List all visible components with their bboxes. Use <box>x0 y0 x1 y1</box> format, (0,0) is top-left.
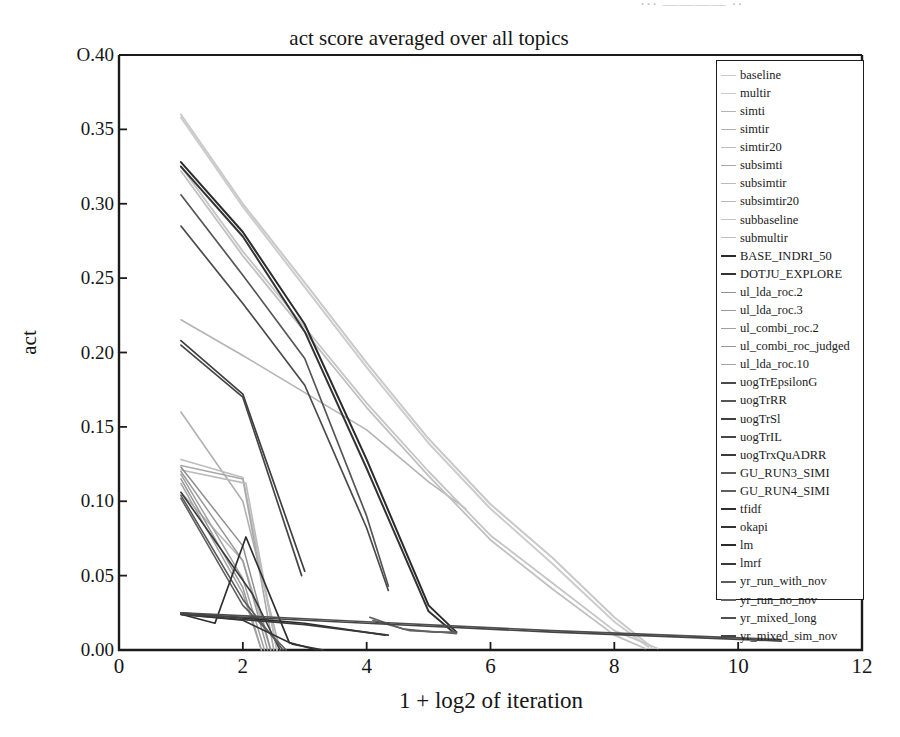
legend-line-swatch-icon <box>721 400 736 402</box>
legend-item[interactable]: submultir <box>721 229 863 247</box>
legend-item[interactable]: ul_combi_roc.2 <box>721 319 863 337</box>
legend-item[interactable]: multir <box>721 84 863 102</box>
legend-item[interactable]: okapi <box>721 518 863 536</box>
legend-line-swatch-icon <box>721 93 736 94</box>
legend-item[interactable]: subbaseline <box>721 211 863 229</box>
legend-item[interactable]: simtir <box>721 120 863 138</box>
legend-item-label: simti <box>740 105 765 118</box>
series-line-multir <box>181 117 648 647</box>
legend-line-swatch-icon <box>721 382 736 384</box>
legend-item-label: uogTrEpsilonG <box>740 376 817 389</box>
legend-item-label: subsimtir20 <box>740 195 799 208</box>
legend-item-label: subsimti <box>740 159 782 172</box>
legend-item-label: ul_combi_roc.2 <box>740 322 819 335</box>
legend-item[interactable]: yr_run_no_nov <box>721 591 863 609</box>
legend-item[interactable]: simti <box>721 102 863 120</box>
legend-item-label: yr_mixed_sim_nov <box>740 630 837 643</box>
legend-line-swatch-icon <box>721 75 736 76</box>
legend-item-label: uogTrSl <box>740 413 781 426</box>
legend-item[interactable]: lmrf <box>721 555 863 573</box>
legend-item[interactable]: subsimtir20 <box>721 193 863 211</box>
legend-line-swatch-icon <box>721 418 736 420</box>
legend-line-swatch-icon <box>721 490 736 492</box>
x-tick-label: 0 <box>99 654 139 679</box>
legend-item[interactable]: yr_mixed_sim_nov <box>721 627 863 645</box>
y-tick-label: 0.25 <box>56 267 114 289</box>
legend-item[interactable]: baseline <box>721 66 863 84</box>
legend-item[interactable]: BASE_INDRI_50 <box>721 247 863 265</box>
legend-item[interactable]: yr_mixed_long <box>721 609 863 627</box>
legend-line-swatch-icon <box>721 436 736 438</box>
legend-line-swatch-icon <box>721 544 736 546</box>
y-tick-label: 0.35 <box>56 118 114 140</box>
legend-item-label: subbaseline <box>740 214 798 227</box>
legend-item[interactable]: tfidf <box>721 500 863 518</box>
series-line-simti <box>181 320 466 509</box>
legend-item-label: uogTrxQuADRR <box>740 449 826 462</box>
legend-item-label: lm <box>740 539 753 552</box>
y-tick-label: 0.05 <box>56 565 114 587</box>
legend-line-swatch-icon <box>721 165 736 166</box>
legend-item[interactable]: uogTrSl <box>721 410 863 428</box>
legend-item-label: yr_mixed_long <box>740 612 816 625</box>
legend-item-label: yr_run_with_nov <box>740 575 827 588</box>
legend-line-swatch-icon <box>721 147 736 148</box>
legend-item[interactable]: GU_RUN3_SIMI <box>721 464 863 482</box>
legend-item[interactable]: lm <box>721 536 863 554</box>
y-tick-label: 0.10 <box>56 490 114 512</box>
legend-item[interactable]: DOTJU_EXPLORE <box>721 265 863 283</box>
legend-item[interactable]: uogTrIL <box>721 428 863 446</box>
legend-item-label: yr_run_no_nov <box>740 594 817 607</box>
legend-item-label: lmrf <box>740 557 762 570</box>
y-tick-label: 0.30 <box>56 193 114 215</box>
legend-item[interactable]: ul_lda_roc.10 <box>721 356 863 374</box>
y-tick-label: 0.20 <box>56 342 114 364</box>
legend-item-label: multir <box>740 87 771 100</box>
series-line-baseline <box>181 115 652 648</box>
legend-line-swatch-icon <box>721 111 736 112</box>
legend-line-swatch-icon <box>721 346 736 347</box>
legend-item-label: ul_lda_roc.3 <box>740 304 803 317</box>
legend-item[interactable]: subsimtir <box>721 175 863 193</box>
legend-line-swatch-icon <box>721 364 736 365</box>
legend-item-label: tfidf <box>740 503 762 516</box>
legend-item[interactable]: uogTrEpsilonG <box>721 374 863 392</box>
legend-line-swatch-icon <box>721 472 736 474</box>
legend-item[interactable]: GU_RUN4_SIMI <box>721 482 863 500</box>
legend-item-label: ul_combi_roc_judged <box>740 340 850 353</box>
legend-item[interactable]: uogTrRR <box>721 392 863 410</box>
series-line-uogTrSl <box>181 341 305 572</box>
legend-item[interactable]: ul_combi_roc_judged <box>721 337 863 355</box>
chart-legend[interactable]: baselinemultirsimtisimtirsimtir20subsimt… <box>716 60 864 600</box>
legend-item[interactable]: yr_run_with_nov <box>721 573 863 591</box>
legend-line-swatch-icon <box>721 617 736 619</box>
legend-item[interactable]: ul_lda_roc.3 <box>721 301 863 319</box>
x-tick-label: 4 <box>347 654 387 679</box>
x-tick-label: 12 <box>842 654 882 679</box>
legend-line-swatch-icon <box>721 255 736 257</box>
legend-line-swatch-icon <box>721 310 736 311</box>
legend-item-label: simtir20 <box>740 141 782 154</box>
y-tick-label: O.40 <box>56 44 114 66</box>
legend-item[interactable]: subsimti <box>721 156 863 174</box>
legend-line-swatch-icon <box>721 183 736 184</box>
legend-line-swatch-icon <box>721 273 736 275</box>
legend-line-swatch-icon <box>721 526 736 528</box>
legend-line-swatch-icon <box>721 129 736 130</box>
legend-item-label: uogTrIL <box>740 431 782 444</box>
legend-item[interactable]: simtir20 <box>721 138 863 156</box>
legend-item-label: baseline <box>740 69 781 82</box>
chart-figure: ··· ———— ·· act score averaged over all … <box>0 0 900 737</box>
legend-item-label: GU_RUN3_SIMI <box>740 467 830 480</box>
legend-line-swatch-icon <box>721 599 736 601</box>
y-tick-label: 0.15 <box>56 416 114 438</box>
legend-line-swatch-icon <box>721 219 736 220</box>
legend-item-label: ul_lda_roc.10 <box>740 358 809 371</box>
legend-item-label: ul_lda_roc.2 <box>740 286 803 299</box>
legend-line-swatch-icon <box>721 581 736 583</box>
legend-item-label: DOTJU_EXPLORE <box>740 268 842 281</box>
data-series-layer <box>181 115 782 651</box>
legend-item-label: BASE_INDRI_50 <box>740 250 832 263</box>
legend-item[interactable]: ul_lda_roc.2 <box>721 283 863 301</box>
legend-item[interactable]: uogTrxQuADRR <box>721 446 863 464</box>
